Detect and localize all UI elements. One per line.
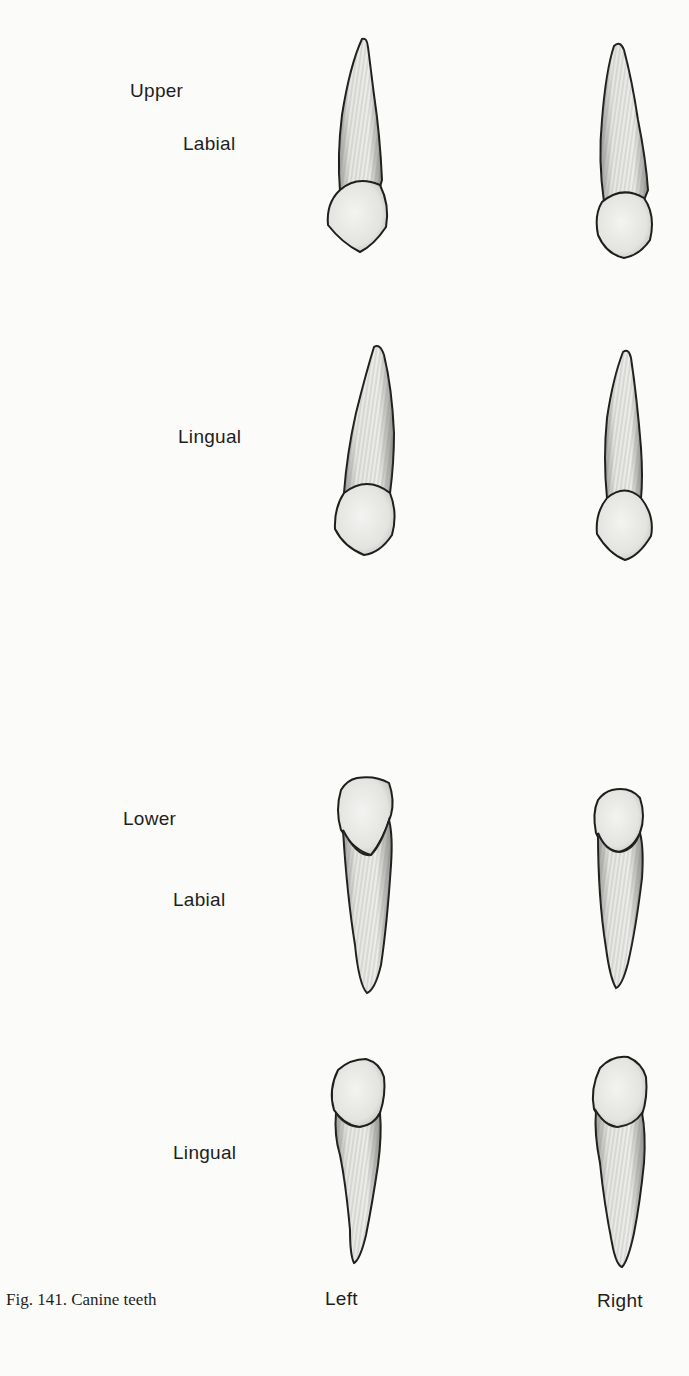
label-upper-labial: Labial: [183, 133, 236, 155]
tooth-lower-lingual-right: [588, 1053, 650, 1271]
label-lower-labial: Labial: [173, 889, 226, 911]
tooth-upper-lingual-right: [595, 348, 657, 563]
tooth-lower-lingual-left: [328, 1055, 388, 1267]
label-upper: Upper: [130, 80, 183, 102]
tooth-lower-labial-right: [592, 788, 648, 990]
label-lower-lingual: Lingual: [173, 1142, 236, 1164]
tooth-upper-labial-left: [322, 35, 397, 255]
tooth-upper-lingual-left: [332, 343, 402, 558]
tooth-lower-labial-left: [335, 775, 397, 997]
tooth-upper-labial-right: [592, 40, 662, 260]
figure-caption: Fig. 141. Canine teeth: [6, 1290, 157, 1310]
column-label-right: Right: [597, 1290, 643, 1312]
label-upper-lingual: Lingual: [178, 426, 241, 448]
column-label-left: Left: [325, 1288, 358, 1310]
label-lower: Lower: [123, 808, 176, 830]
